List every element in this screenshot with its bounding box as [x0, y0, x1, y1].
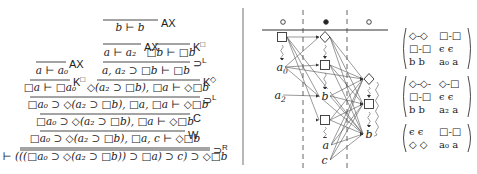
matrix-cell: □-□ — [409, 91, 431, 102]
rule-superscript: L — [202, 56, 207, 65]
rule-label: ⊃L — [193, 56, 207, 69]
node-subscript: 2 — [280, 95, 286, 104]
sequent: □a₀ ⊃ ◇(a₂ ⊃ □b), □a, c ⊢ ◇□b — [30, 132, 201, 144]
matrix-cell: □-□ — [439, 126, 461, 137]
graph-edge — [285, 65, 319, 67]
left-paren — [404, 28, 407, 69]
box-node-icon — [321, 61, 330, 70]
squiggle-arrow — [368, 112, 371, 127]
rule-label: ⊃L — [203, 93, 217, 106]
node-subscript: 0 — [283, 67, 288, 76]
rule-superscript: □ — [80, 75, 85, 84]
sequent: □a ⊢ □a₀ — [24, 81, 77, 93]
matrix-cell: ◇ ◇ — [409, 139, 428, 150]
diamond-node-icon — [364, 74, 374, 85]
sequent: a ⊢ a₀ — [36, 64, 69, 76]
arrowhead-icon — [367, 95, 371, 98]
matrix-cell: a₂ a — [439, 104, 458, 115]
left-paren — [404, 76, 407, 117]
graph-edge — [330, 96, 363, 134]
sequent: b ⊢ b — [115, 21, 144, 33]
rule-label: AX — [69, 58, 84, 70]
squiggle-arrow — [281, 45, 284, 60]
node-label: a2 — [275, 89, 287, 104]
rule-label: W — [188, 129, 199, 141]
rule-superscript: L — [212, 93, 217, 102]
graph-edge — [330, 96, 363, 104]
box-node-icon — [365, 100, 374, 109]
graph-edge — [330, 65, 363, 79]
rule-label: K◇ — [203, 75, 217, 88]
matrix-cell: ϵ ϵ — [439, 91, 454, 102]
left-paren — [404, 124, 407, 152]
matrix-cell: ◇-◇ — [409, 30, 428, 41]
box-node-icon — [278, 33, 287, 42]
rule-superscript: ◇ — [210, 75, 217, 84]
matrix-cell: a₀ a — [439, 139, 458, 150]
matrix-cell: b b — [409, 56, 425, 67]
graph-edge — [330, 134, 363, 160]
node-label: b — [322, 90, 329, 103]
box-node-icon — [321, 116, 330, 125]
node-label: c — [322, 154, 328, 167]
hollow-dot-icon — [281, 20, 286, 25]
node-label: b — [366, 128, 373, 141]
figure: b ⊢ bAXa ⊢ a₂AX□b ⊢ □bK□a, a₂ ⊃ □b ⊢ □b⊃… — [0, 0, 477, 174]
sequent: ⊢ (((□a₀ ⊃ ◇(a₂ ⊃ □b)) ⊃ □a) ⊃ c) ⊃ ◇□b — [3, 150, 228, 162]
matrix-cell: ϵ ϵ — [409, 126, 424, 137]
sequent: a, a₂ ⊃ □b ⊢ □b — [102, 64, 190, 76]
proof-graph: a0a2bacb — [262, 10, 388, 168]
rule-label: K□ — [73, 75, 85, 88]
arrowhead-icon — [316, 64, 319, 67]
rule-label: AX — [161, 17, 176, 29]
sequent: a ⊢ a₂ — [104, 46, 136, 58]
right-paren — [468, 76, 471, 117]
matrix-cell: ◇-◇- — [409, 78, 431, 89]
matrix-cell: ◇-□ — [439, 78, 460, 89]
node-label: a — [323, 139, 330, 152]
matrices: ◇-◇□-□□-□ϵ ϵb ba₀ a◇-◇-◇-□□-□ϵ ϵb ba₂ aϵ… — [404, 28, 471, 152]
matrix-cell: b b — [409, 104, 425, 115]
diamond-node-icon — [320, 32, 330, 43]
graph-edge — [283, 95, 319, 96]
matrix-cell: □-□ — [409, 43, 431, 54]
sequent: □b ⊢ □b — [147, 46, 196, 58]
arrowhead-icon — [323, 56, 327, 59]
right-paren — [468, 124, 471, 152]
filled-dot-icon — [324, 20, 329, 25]
node-label: a0 — [277, 61, 289, 76]
graph-edge — [285, 37, 319, 67]
sequent-proof-tree: b ⊢ bAXa ⊢ a₂AX□b ⊢ □bK□a, a₂ ⊃ □b ⊢ □b⊃… — [3, 17, 228, 162]
matrix-cell: ϵ ϵ — [439, 43, 454, 54]
sequent: □a₀ ⊃ ◇(a₂ ⊃ □b), □a ⊢ ◇□b — [36, 115, 194, 127]
rule-superscript: □ — [200, 40, 205, 49]
sequent: ◇(a₂ ⊃ □b), □a ⊢ ◇□b — [87, 81, 209, 93]
rule-label: C — [193, 112, 201, 124]
matrix-cell: □-□ — [439, 30, 461, 41]
graph-edge — [330, 37, 363, 79]
rule-label: K□ — [193, 40, 205, 53]
right-paren — [468, 28, 471, 69]
rule-superscript: R — [222, 143, 228, 152]
sequent: □a₀ ⊃ ◇(a₂ ⊃ □b), □a, □a ⊢ ◇□b — [28, 98, 209, 110]
hollow-dot-icon — [367, 20, 372, 25]
matrix-cell: a₀ a — [439, 56, 458, 67]
